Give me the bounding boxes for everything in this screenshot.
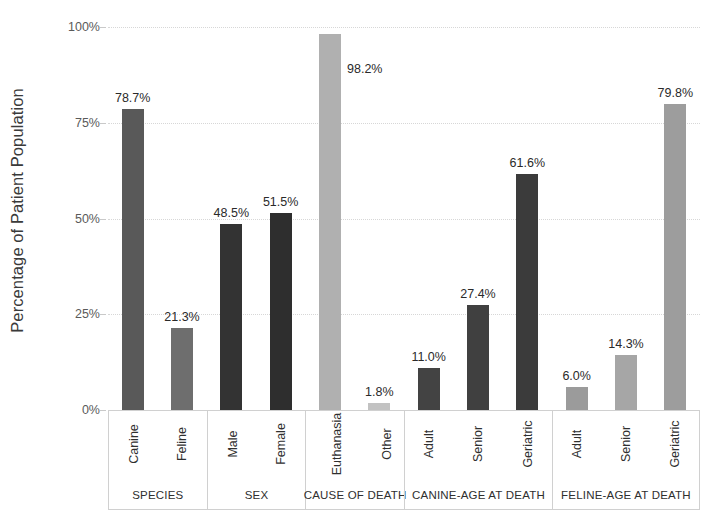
plot-area: 78.7%21.3%48.5%51.5%98.2%1.8%11.0%27.4%6… bbox=[108, 27, 700, 410]
bar-value-label: 21.3% bbox=[152, 310, 212, 324]
category-label: Euthanasia bbox=[331, 413, 345, 476]
bar bbox=[615, 355, 637, 410]
bar-value-label: 14.3% bbox=[596, 337, 656, 351]
category-cell: Geriatric bbox=[503, 411, 552, 485]
category-cell: Adult bbox=[405, 411, 454, 485]
category-cell: Adult bbox=[553, 411, 602, 485]
group-block: EuthanasiaOtherCAUSE OF DEATH bbox=[305, 410, 404, 510]
category-row: MaleFemale bbox=[208, 411, 306, 485]
bar-value-label: 98.2% bbox=[347, 62, 382, 76]
y-tick-mark bbox=[100, 27, 106, 28]
bar bbox=[664, 104, 686, 410]
gridline bbox=[108, 27, 700, 28]
bar bbox=[122, 109, 144, 410]
bar-value-label: 6.0% bbox=[547, 369, 607, 383]
y-axis-title-text: Percentage of Patient Population bbox=[8, 88, 27, 332]
y-axis-title: Percentage of Patient Population bbox=[0, 0, 34, 420]
bar bbox=[418, 368, 440, 410]
category-row: EuthanasiaOther bbox=[306, 411, 404, 485]
y-tick-label: 100% bbox=[48, 20, 100, 34]
bar-value-label: 11.0% bbox=[399, 350, 459, 364]
group-name-label: CANINE-AGE AT DEATH bbox=[405, 485, 552, 509]
category-label-table: CanineFelineSPECIESMaleFemaleSEXEuthanas… bbox=[108, 410, 700, 510]
category-label: Feline bbox=[175, 427, 189, 461]
category-label: Male bbox=[225, 430, 239, 457]
category-cell: Feline bbox=[158, 411, 207, 485]
category-label: Adult bbox=[570, 430, 584, 459]
category-label: Other bbox=[379, 428, 393, 459]
bar bbox=[171, 328, 193, 410]
category-row: CanineFeline bbox=[109, 411, 207, 485]
category-cell: Geriatric bbox=[650, 411, 699, 485]
category-cell: Other bbox=[369, 411, 404, 485]
y-tick-mark bbox=[100, 410, 106, 411]
category-cell: Male bbox=[208, 411, 257, 485]
bar-value-label: 51.5% bbox=[251, 195, 311, 209]
y-tick-mark bbox=[100, 219, 106, 220]
y-axis-tick-labels: 0%25%50%75%100% bbox=[42, 27, 100, 410]
category-cell: Female bbox=[256, 411, 305, 485]
bar bbox=[566, 387, 588, 410]
bar bbox=[319, 34, 341, 410]
bar-value-label: 78.7% bbox=[103, 91, 163, 105]
group-block: CanineFelineSPECIES bbox=[108, 410, 207, 510]
category-label: Adult bbox=[422, 430, 436, 459]
category-label: Senior bbox=[471, 426, 485, 462]
group-name-label: SEX bbox=[208, 485, 306, 509]
y-tick-mark bbox=[100, 123, 106, 124]
group-name-label: SPECIES bbox=[109, 485, 207, 509]
category-cell: Canine bbox=[109, 411, 158, 485]
category-cell: Senior bbox=[602, 411, 651, 485]
y-tick-label: 75% bbox=[48, 116, 100, 130]
bar-value-label: 27.4% bbox=[448, 287, 508, 301]
category-label: Canine bbox=[126, 424, 140, 464]
group-block: AdultSeniorGeriatricCANINE-AGE AT DEATH bbox=[404, 410, 552, 510]
category-cell: Euthanasia bbox=[306, 411, 369, 485]
bar-value-label: 79.8% bbox=[645, 86, 702, 100]
group-block: MaleFemaleSEX bbox=[207, 410, 306, 510]
category-label: Geriatric bbox=[668, 420, 682, 467]
bar-value-label: 1.8% bbox=[349, 385, 409, 399]
group-block: AdultSeniorGeriatricFELINE-AGE AT DEATH bbox=[552, 410, 700, 510]
y-tick-mark bbox=[100, 314, 106, 315]
category-label: Geriatric bbox=[520, 420, 534, 467]
gridline bbox=[108, 219, 700, 220]
y-tick-label: 0% bbox=[48, 403, 100, 417]
group-name-label: FELINE-AGE AT DEATH bbox=[553, 485, 699, 509]
category-label: Senior bbox=[619, 426, 633, 462]
bar bbox=[270, 213, 292, 410]
category-label: Female bbox=[274, 423, 288, 465]
bar bbox=[220, 224, 242, 410]
category-row: AdultSeniorGeriatric bbox=[405, 411, 552, 485]
y-tick-label: 25% bbox=[48, 307, 100, 321]
category-cell: Senior bbox=[454, 411, 503, 485]
gridline bbox=[108, 123, 700, 124]
bar-value-label: 61.6% bbox=[497, 156, 557, 170]
bar bbox=[467, 305, 489, 410]
bar bbox=[516, 174, 538, 410]
group-name-label: CAUSE OF DEATH bbox=[306, 485, 404, 509]
bar-chart: Percentage of Patient Population 0%25%50… bbox=[0, 0, 702, 520]
category-row: AdultSeniorGeriatric bbox=[553, 411, 699, 485]
y-tick-label: 50% bbox=[48, 212, 100, 226]
bar bbox=[368, 403, 390, 410]
